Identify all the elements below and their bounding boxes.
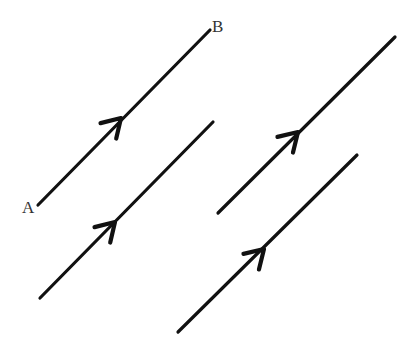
label-a: A — [22, 198, 35, 217]
vector-line-2 — [40, 122, 213, 298]
vector-line-3 — [218, 37, 395, 213]
line-segment — [218, 37, 395, 213]
vector-lines — [38, 30, 395, 332]
line-segment — [40, 122, 213, 298]
vector-line-4 — [178, 155, 357, 332]
vector-AB — [38, 30, 210, 205]
line-segment — [38, 30, 210, 205]
parallel-vectors-diagram: A B — [0, 0, 406, 350]
arrowhead-icon — [101, 118, 121, 139]
line-segment — [178, 155, 357, 332]
label-b: B — [212, 17, 223, 36]
